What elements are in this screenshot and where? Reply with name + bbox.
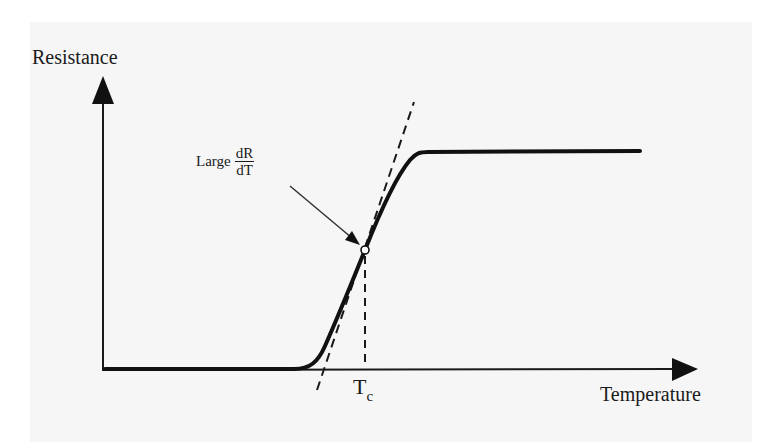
x-axis-arrow-icon bbox=[672, 358, 698, 381]
y-axis-arrow-icon bbox=[92, 76, 114, 104]
tc-symbol: T bbox=[353, 374, 366, 399]
resistance-curve bbox=[105, 151, 640, 369]
fraction-numerator: dR bbox=[235, 145, 255, 162]
slope-annotation-prefix: Large bbox=[196, 153, 231, 170]
diagram-canvas: Resistance Temperature Tc Large dR dT bbox=[0, 0, 774, 445]
tc-subscript: c bbox=[366, 388, 373, 404]
slope-annotation: Large dR dT bbox=[196, 145, 254, 178]
critical-temperature-label: Tc bbox=[353, 374, 373, 403]
pointer-arrow-line bbox=[290, 186, 352, 238]
inflection-point-marker bbox=[361, 246, 369, 254]
y-axis-label: Resistance bbox=[32, 46, 118, 69]
x-axis-label: Temperature bbox=[600, 383, 701, 406]
fraction-denominator: dT bbox=[236, 162, 253, 178]
derivative-fraction: dR dT bbox=[235, 145, 255, 178]
